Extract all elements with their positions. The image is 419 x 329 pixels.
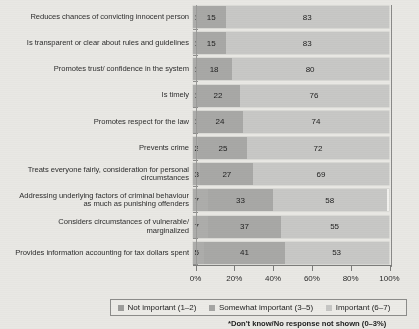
bar-segment: 55: [281, 216, 389, 238]
bar-row-label: Is transparent or clear about rules and …: [0, 39, 193, 48]
bar-segment-value: 41: [240, 248, 249, 257]
bar-segment: 33: [208, 189, 273, 211]
bar-segment-value: 33: [236, 196, 245, 205]
x-axis-tick-labels: 0%20%40%60%80%100%: [173, 274, 413, 286]
bar-row: Reduces chances of convicting innocent p…: [0, 5, 419, 29]
stacked-bar: 11583: [193, 6, 389, 28]
x-axis-tick: [351, 266, 352, 271]
bar-row: Provides information accounting for tax …: [0, 241, 419, 265]
bar-row-label: Promotes respect for the law: [0, 118, 193, 127]
bar-row-label-line: Prevents crime: [0, 144, 189, 153]
bar-row-label-line: Is timely: [0, 91, 189, 100]
bar-segment-value: 83: [303, 13, 312, 22]
bar-row: Addressing underlying factors of crimina…: [0, 188, 419, 212]
bar-segment: 76: [240, 85, 389, 107]
bar-segment: 83: [226, 32, 389, 54]
plot-right-boundary-line: [391, 5, 392, 267]
bar-row-label: Reduces chances of convicting innocent p…: [0, 13, 193, 22]
bar-segment-value: 72: [314, 144, 323, 153]
bar-segment: 37: [208, 216, 281, 238]
bar-row: Considers circumstances of vulnerable/ma…: [0, 215, 419, 239]
chart-footnote: *Don't know/No response not shown (0–3%): [228, 319, 419, 328]
bar-segment: 18: [196, 58, 231, 80]
x-axis-tick-label: 80%: [331, 274, 371, 283]
chart-legend: Not important (1–2)Somewhat important (3…: [110, 299, 407, 316]
bar-segment: 58: [273, 189, 387, 211]
x-axis: [193, 265, 392, 274]
bar-row-label-line: circumstances: [0, 174, 189, 183]
legend-item-label: Important (6–7): [336, 303, 391, 312]
bar-row-label: Addressing underlying factors of crimina…: [0, 192, 193, 209]
bar-segment-value: 15: [207, 39, 216, 48]
bar-row-label: Promotes trust/ confidence in the system: [0, 65, 193, 74]
bar-row: Promotes trust/ confidence in the system…: [0, 57, 419, 81]
bar-row-label-line: as much as punishing offenders: [0, 200, 189, 209]
legend-item-label: Somewhat important (3–5): [219, 303, 313, 312]
bar-segment: 72: [247, 137, 388, 159]
bar-segment-value: 15: [207, 13, 216, 22]
legend-swatch-icon: [326, 305, 332, 311]
bar-segment-value: 27: [222, 170, 231, 179]
bar-segment: 24: [196, 111, 243, 133]
bar-row-label-line: Reduces chances of convicting innocent p…: [0, 13, 189, 22]
bar-row-label-line: Promotes respect for the law: [0, 118, 189, 127]
bar-row-label: Considers circumstances of vulnerable/ma…: [0, 218, 193, 235]
plot-left-axis-line: [196, 5, 197, 267]
stacked-bar: 73755: [193, 216, 389, 238]
bar-segment: 22: [196, 85, 239, 107]
bar-row-label-line: Provides information accounting for tax …: [0, 249, 189, 258]
bar-row-label-line: Promotes trust/ confidence in the system: [0, 65, 189, 74]
bar-segment-value: 83: [303, 39, 312, 48]
stacked-bar: 11583: [193, 32, 389, 54]
bar-segment: 41: [204, 242, 284, 264]
x-axis-tick: [312, 266, 313, 271]
x-axis-tick-label: 60%: [292, 274, 332, 283]
bar-segment-value: 22: [214, 91, 223, 100]
stacked-bar: 32769: [193, 163, 389, 185]
bar-row: Treats everyone fairly, consideration fo…: [0, 162, 419, 186]
legend-swatch-icon: [209, 305, 215, 311]
bar-row-label: Provides information accounting for tax …: [0, 249, 193, 258]
bar-row-label: Treats everyone fairly, consideration fo…: [0, 166, 193, 183]
stacked-bar: 11880: [193, 58, 389, 80]
bar-segment: 69: [253, 163, 388, 185]
bar-segment-value: 55: [330, 222, 339, 231]
bar-segment: 53: [285, 242, 389, 264]
stacked-bar: 73358: [193, 189, 389, 211]
stacked-bar: 12276: [193, 85, 389, 107]
bar-row: Is transparent or clear about rules and …: [0, 31, 419, 55]
bar-segment: 25: [198, 137, 247, 159]
bar-segment: 27: [200, 163, 253, 185]
x-axis-tick: [273, 266, 274, 271]
bar-rows-container: Reduces chances of convicting innocent p…: [0, 5, 419, 267]
bar-segment: 3: [193, 163, 200, 185]
bar-row: Prevents crime22572: [0, 136, 419, 160]
bar-segment-value: 25: [218, 144, 227, 153]
bar-segment-value: 76: [310, 91, 319, 100]
bar-segment-value: 69: [316, 170, 325, 179]
x-axis-tick-label: 40%: [253, 274, 293, 283]
stacked-bar: 54153: [193, 242, 389, 264]
legend-item: Not important (1–2): [118, 303, 196, 312]
x-axis-tick-label: 0%: [176, 274, 216, 283]
x-axis-tick-label: 100%: [370, 274, 410, 283]
stacked-bar: 22572: [193, 137, 389, 159]
bar-segment-value: 18: [210, 65, 219, 74]
x-axis-tick: [390, 266, 391, 271]
bar-segment-value: 74: [312, 117, 321, 126]
bar-segment: 83: [226, 6, 389, 28]
bar-row-label-line: Is transparent or clear about rules and …: [0, 39, 189, 48]
x-axis-tick: [234, 266, 235, 271]
legend-item: Important (6–7): [326, 303, 390, 312]
x-axis-tick-label: 20%: [214, 274, 254, 283]
stacked-bar: 12474: [193, 111, 389, 133]
legend-item: Somewhat important (3–5): [209, 303, 313, 312]
bar-segment-value: 37: [240, 222, 249, 231]
bar-segment: 15: [196, 32, 225, 54]
bar-segment-value: 58: [325, 196, 334, 205]
bar-row: Is timely12276: [0, 84, 419, 108]
legend-swatch-icon: [118, 305, 124, 311]
bar-segment-value: 24: [216, 117, 225, 126]
bar-row-label: Prevents crime: [0, 144, 193, 153]
x-axis-tick: [196, 266, 197, 271]
